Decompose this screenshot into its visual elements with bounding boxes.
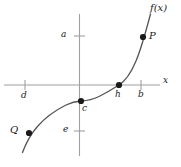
y-tick-label-e: e	[63, 125, 68, 134]
point-label-c: c	[82, 104, 87, 113]
point-label-P: P	[149, 31, 156, 41]
curve-fx	[23, 14, 151, 153]
figure-graph-of-f: a e d h b c P Q x f(x)	[0, 0, 181, 167]
point-P	[140, 34, 146, 40]
graph-canvas	[0, 0, 181, 167]
x-axis-label: x	[163, 76, 168, 85]
point-h	[116, 82, 122, 88]
x-tick-label-b: b	[138, 90, 144, 99]
x-tick-label-d: d	[21, 91, 27, 100]
point-label-Q: Q	[10, 125, 18, 135]
x-tick-label-h: h	[115, 90, 121, 99]
point-Q	[26, 130, 32, 136]
curve-label-fx: f(x)	[150, 3, 167, 13]
y-tick-label-a: a	[61, 30, 66, 39]
